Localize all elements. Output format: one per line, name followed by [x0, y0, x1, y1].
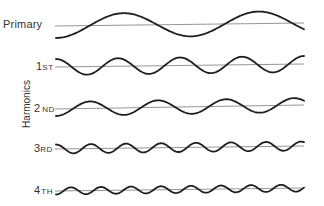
label-4th-number: 4: [34, 184, 40, 196]
baseline-2nd: [55, 105, 304, 109]
label-4th: 4TH: [34, 184, 53, 196]
label-2nd: 2ND: [34, 102, 55, 114]
label-2nd-suffix: ND: [42, 105, 55, 114]
label-3rd-suffix: RD: [40, 145, 53, 154]
baseline-1st: [55, 64, 304, 67]
label-4th-suffix: TH: [41, 187, 53, 196]
label-1st: 1ST: [36, 60, 54, 72]
label-primary: Primary: [3, 18, 42, 30]
label-3rd: 3RD: [34, 142, 53, 154]
baseline-3rd: [55, 146, 304, 149]
label-2nd-number: 2: [34, 102, 40, 114]
label-primary-text: Primary: [3, 18, 42, 30]
label-1st-suffix: ST: [42, 63, 53, 72]
harmonics-axis-label: Harmonics: [21, 80, 32, 128]
